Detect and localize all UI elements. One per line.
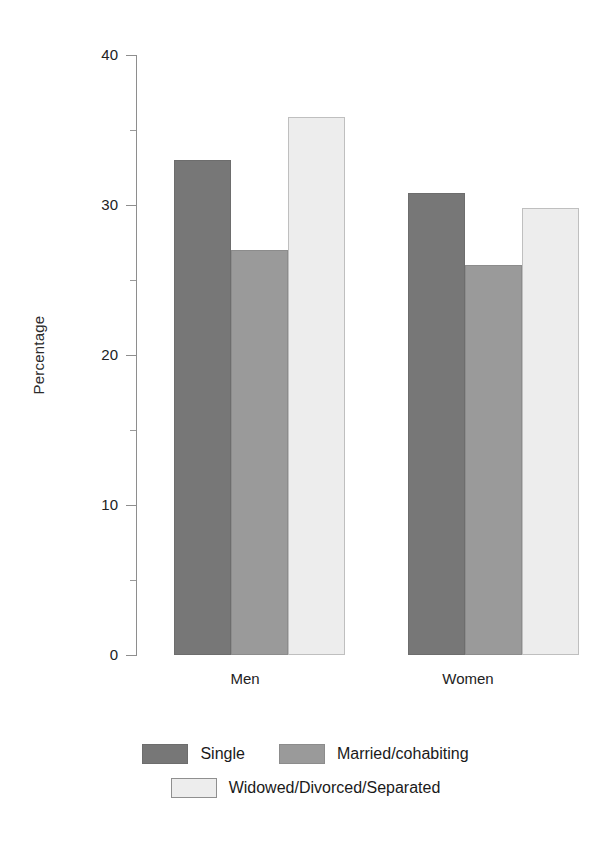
chart-legend: SingleMarried/cohabitingWidowed/Divorced… [0,744,611,812]
y-axis-tick-40 [126,55,136,56]
bar-men-married-cohabiting [231,250,288,655]
y-axis-title: Percentage [30,55,48,655]
legend-swatch-icon [171,778,217,798]
y-axis-tick-0 [126,655,136,656]
bar-women-single [408,193,465,655]
bar-chart-figure: Percentage 010203040 MenWomen SingleMarr… [0,0,611,854]
legend-item-married-cohabiting[interactable]: Married/cohabiting [279,744,469,764]
x-axis-label-women: Women [418,670,518,687]
legend-label: Single [200,745,244,763]
y-axis-tick-10 [126,505,136,506]
legend-label: Married/cohabiting [337,745,469,763]
bar-women-married-cohabiting [465,265,522,655]
legend-item-single[interactable]: Single [142,744,278,764]
y-axis-tick-label-30: 30 [78,197,118,212]
y-axis-tick-20 [126,355,136,356]
y-axis-tick-label-0: 0 [78,647,118,662]
bar-women-widowed-divorced-separated [522,208,579,655]
y-axis-tick-label-20: 20 [78,347,118,362]
legend-row-1: SingleMarried/cohabiting [0,744,611,764]
y-axis-tick-30 [126,205,136,206]
legend-row-2: Widowed/Divorced/Separated [0,778,611,798]
legend-swatch-icon [279,744,325,764]
legend-swatch-icon [142,744,188,764]
legend-item-widowed-divorced-separated[interactable]: Widowed/Divorced/Separated [171,778,441,798]
y-axis-tick-label-40: 40 [78,47,118,62]
bar-men-widowed-divorced-separated [288,117,345,656]
x-axis-label-men: Men [195,670,295,687]
y-axis-tick-label-10: 10 [78,497,118,512]
legend-label: Widowed/Divorced/Separated [229,779,441,797]
bar-men-single [174,160,231,655]
plot-area [136,55,586,655]
